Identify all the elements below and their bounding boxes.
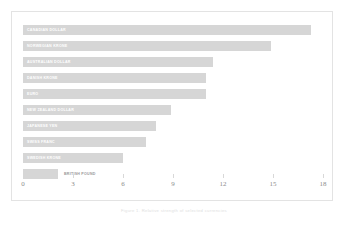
bar-row: DANISH KRONE	[23, 70, 323, 86]
axis-tick-label: 18	[320, 180, 327, 188]
bar-row: NEW ZEALAND DOLLAR	[23, 102, 323, 118]
bar-category-label: AUSTRALIAN DOLLAR	[27, 57, 71, 67]
bar	[23, 89, 206, 99]
bar-category-label: SWISS FRANC	[27, 137, 55, 147]
x-axis: 0369121518	[23, 174, 323, 202]
bar-row: NORWEGIAN KRONE	[23, 38, 323, 54]
chart-frame: CANADIAN DOLLARNORWEGIAN KRONEAUSTRALIAN…	[11, 11, 333, 201]
bar-row: SWISS FRANC	[23, 134, 323, 150]
axis-tick-label: 3	[71, 180, 75, 188]
axis-tick-label: 6	[121, 180, 125, 188]
bar-category-label: JAPANESE YEN	[27, 121, 57, 131]
bar-category-label: SWEDISH KRONE	[27, 153, 61, 163]
axis-tick-label: 9	[171, 180, 175, 188]
figure-caption: Figure 1. Relative strength of selected …	[0, 208, 348, 213]
bar-row: CANADIAN DOLLAR	[23, 22, 323, 38]
bar-row: SWEDISH KRONE	[23, 150, 323, 166]
bar-category-label: NEW ZEALAND DOLLAR	[27, 105, 74, 115]
bar-row: EURO	[23, 86, 323, 102]
bar-row: AUSTRALIAN DOLLAR	[23, 54, 323, 70]
bar-category-label: CANADIAN DOLLAR	[27, 25, 66, 35]
bar-category-label: NORWEGIAN KRONE	[27, 41, 67, 51]
axis-tick-label: 0	[21, 180, 25, 188]
bar-category-label: EURO	[27, 89, 38, 99]
bar	[23, 25, 311, 35]
bar-row: JAPANESE YEN	[23, 118, 323, 134]
chart-screenshot: CANADIAN DOLLARNORWEGIAN KRONEAUSTRALIAN…	[0, 0, 348, 227]
axis-tick-label: 12	[220, 180, 227, 188]
axis-tick	[273, 174, 274, 178]
bar-plot-area: CANADIAN DOLLARNORWEGIAN KRONEAUSTRALIAN…	[23, 22, 323, 172]
axis-tick-label: 15	[270, 180, 277, 188]
axis-tick	[173, 174, 174, 178]
bar-category-label: DANISH KRONE	[27, 73, 58, 83]
axis-tick	[73, 174, 74, 178]
axis-tick	[223, 174, 224, 178]
axis-tick	[323, 174, 324, 178]
axis-tick	[123, 174, 124, 178]
